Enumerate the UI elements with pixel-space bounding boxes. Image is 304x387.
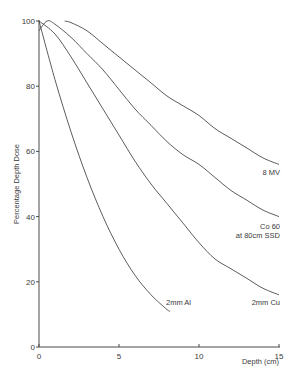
series-2mm-al-curve: [39, 21, 170, 311]
y-tick-label: 100: [22, 17, 36, 26]
y-tick-label: 40: [26, 213, 35, 222]
x-tick-label: 10: [195, 352, 204, 361]
y-tick-label: 60: [26, 147, 35, 156]
label-2mm-al: 2mm Al: [166, 298, 191, 307]
series-co60-curve: [39, 21, 279, 217]
x-axis-title: Depth (cm): [242, 357, 280, 366]
x-tick-label: 0: [37, 352, 42, 361]
label-co60: at 80cm SSD: [236, 231, 281, 240]
label-co60: Co 60: [260, 222, 280, 231]
series-group: [39, 21, 279, 312]
series-labels: 8 MVCo 60at 80cm SSD2mm Cu2mm Al: [166, 168, 281, 307]
depth-dose-chart: 020406080100051015 8 MVCo 60at 80cm SSD2…: [0, 0, 304, 387]
x-tick-label: 5: [117, 352, 122, 361]
series-2mm-cu-curve: [39, 21, 279, 295]
y-tick-label: 20: [26, 278, 35, 287]
y-tick-label: 0: [31, 343, 36, 352]
axes: 020406080100051015: [22, 17, 284, 361]
y-tick-label: 80: [26, 82, 35, 91]
y-axis-title: Percentage Depth Dose: [12, 144, 21, 224]
label-2mm-cu: 2mm Cu: [252, 298, 280, 307]
series-8mv-curve: [65, 21, 279, 164]
label-8mv: 8 MV: [262, 168, 280, 177]
